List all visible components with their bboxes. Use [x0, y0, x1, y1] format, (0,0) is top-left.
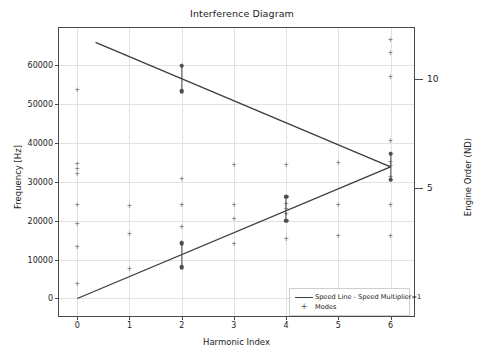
- x-axis-title: Harmonic Index: [58, 337, 415, 347]
- mode-marker: +: [74, 244, 80, 251]
- chart-title: Interference Diagram: [0, 8, 484, 19]
- legend-item-speed-line: Speed Line - Speed Multiplier=1: [293, 292, 405, 302]
- mode-marker: +: [231, 202, 237, 209]
- mode-marker: +: [388, 137, 394, 144]
- mode-marker: +: [179, 264, 185, 271]
- x-tick-label: 2: [179, 321, 184, 330]
- mode-marker: +: [388, 49, 394, 56]
- secondary-y-axis-title: Engine Order (ND): [463, 102, 473, 252]
- x-tick-label: 1: [127, 321, 132, 330]
- y-tick: [55, 143, 59, 144]
- legend-line-icon: [293, 297, 315, 298]
- mode-marker: +: [335, 233, 341, 240]
- speed-line: [77, 167, 390, 299]
- mode-marker: +: [179, 240, 185, 247]
- legend: Speed Line - Speed Multiplier=1 + Modes: [289, 288, 410, 316]
- mode-marker: +: [179, 88, 185, 95]
- legend-plus-icon: +: [293, 303, 315, 311]
- x-tick: [129, 316, 130, 320]
- mode-marker: +: [388, 233, 394, 240]
- mode-marker: +: [388, 176, 394, 183]
- data-layer: ++++++++++++++++++++++++++++++++++++++++…: [59, 28, 414, 316]
- y-tick-label: 20000: [28, 216, 53, 225]
- plot-area: ++++++++++++++++++++++++++++++++++++++++…: [58, 27, 415, 317]
- mode-marker: +: [283, 217, 289, 224]
- y-tick-label: 40000: [28, 138, 53, 147]
- mode-marker: +: [179, 202, 185, 209]
- interference-diagram-figure: Interference Diagram +++++++++++++++++++…: [0, 0, 484, 361]
- secondary-y-tick: [414, 188, 423, 189]
- x-tick: [286, 316, 287, 320]
- y-tick-label: 50000: [28, 99, 53, 108]
- mode-marker: +: [335, 160, 341, 167]
- y-tick-label: 60000: [28, 60, 53, 69]
- x-tick-label: 0: [75, 321, 80, 330]
- y-tick-label: 30000: [28, 177, 53, 186]
- mode-marker: +: [74, 87, 80, 94]
- secondary-y-tick: [414, 79, 423, 80]
- mode-marker: +: [231, 216, 237, 223]
- x-tick: [234, 316, 235, 320]
- mode-marker: +: [231, 162, 237, 169]
- mode-marker: +: [388, 73, 394, 80]
- x-tick-label: 5: [336, 321, 341, 330]
- y-tick: [55, 221, 59, 222]
- y-tick-label: 0: [48, 294, 53, 303]
- mode-marker: +: [388, 163, 394, 170]
- y-tick: [55, 298, 59, 299]
- mode-marker: +: [74, 281, 80, 288]
- mode-marker: +: [335, 202, 341, 209]
- speed-line: [96, 42, 391, 167]
- x-tick-label: 6: [388, 321, 393, 330]
- mode-marker: +: [74, 221, 80, 228]
- y-tick: [55, 260, 59, 261]
- mode-marker: +: [74, 202, 80, 209]
- mode-marker: +: [127, 266, 133, 273]
- mode-marker: +: [388, 36, 394, 43]
- mode-marker: +: [231, 241, 237, 248]
- x-tick: [182, 316, 183, 320]
- y-tick-label: 10000: [28, 255, 53, 264]
- x-tick: [338, 316, 339, 320]
- line-series-layer: [59, 28, 414, 316]
- x-tick: [77, 316, 78, 320]
- mode-marker: +: [388, 202, 394, 209]
- y-tick: [55, 182, 59, 183]
- secondary-y-tick-label: 10: [427, 74, 438, 84]
- y-tick: [55, 65, 59, 66]
- y-tick: [55, 104, 59, 105]
- y-axis-title: Frequency [Hz]: [13, 107, 23, 247]
- mode-marker: +: [74, 170, 80, 177]
- mode-marker: +: [388, 150, 394, 157]
- x-tick-label: 3: [231, 321, 236, 330]
- legend-item-modes: + Modes: [293, 302, 405, 312]
- mode-marker: +: [283, 162, 289, 169]
- mode-marker: +: [127, 202, 133, 209]
- mode-marker: +: [283, 235, 289, 242]
- x-tick-label: 4: [284, 321, 289, 330]
- x-tick: [391, 316, 392, 320]
- legend-label-modes: Modes: [315, 303, 336, 311]
- mode-marker: +: [179, 62, 185, 69]
- secondary-y-tick-label: 5: [427, 183, 433, 193]
- mode-marker: +: [179, 175, 185, 182]
- legend-label-speed-line: Speed Line - Speed Multiplier=1: [315, 293, 421, 301]
- mode-marker: +: [179, 223, 185, 230]
- mode-marker: +: [127, 231, 133, 238]
